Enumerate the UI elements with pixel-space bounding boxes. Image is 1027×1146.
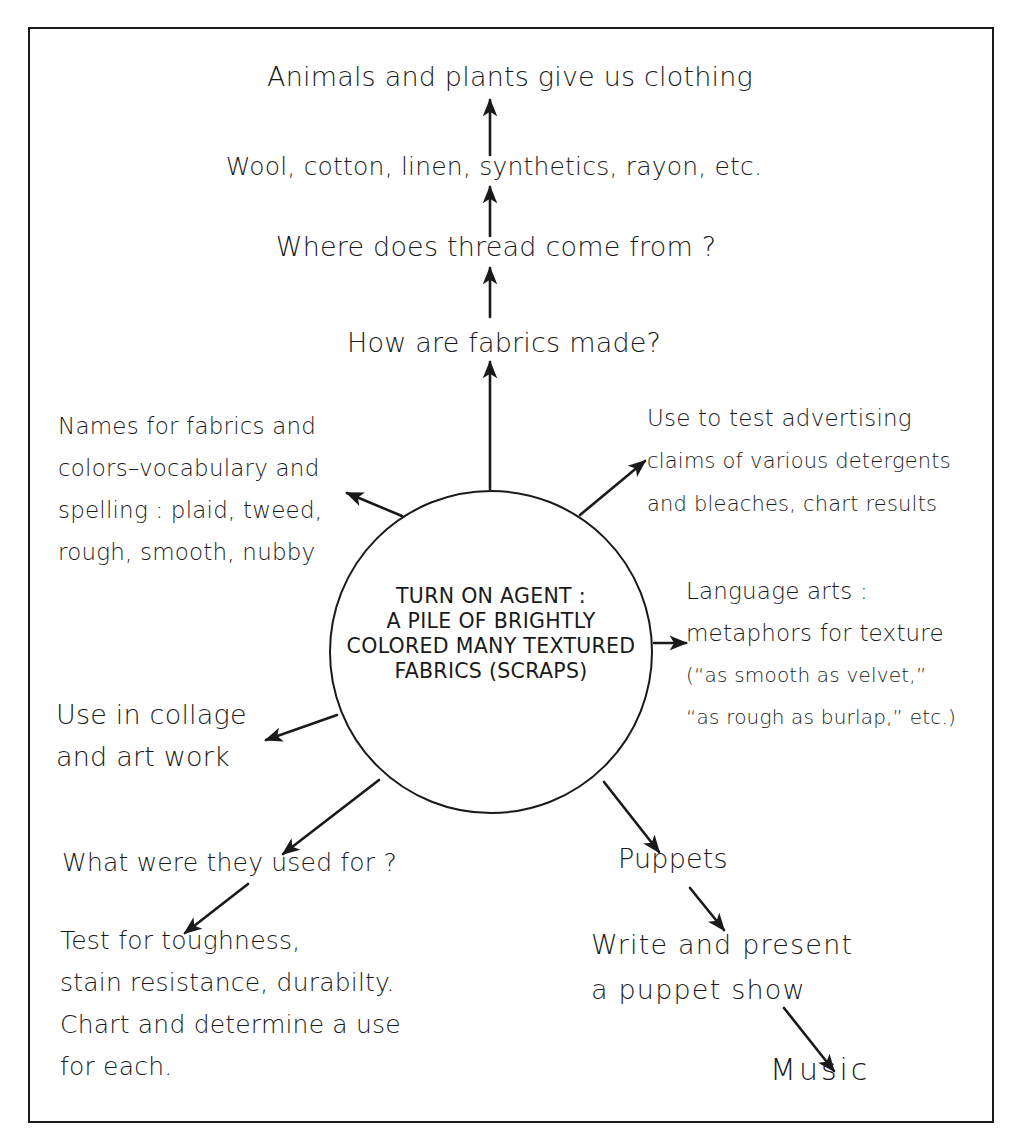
node-materials: Wool, cotton, linen, synthetics, rayon, … bbox=[226, 146, 762, 188]
node-used-for: What were they used for ? bbox=[62, 842, 397, 884]
hub-line: COLORED MANY TEXTURED bbox=[347, 634, 636, 659]
puppet-show-line: Write and present bbox=[591, 922, 853, 967]
node-test: Test for toughness, stain resistance, du… bbox=[60, 920, 401, 1088]
language-arts-line: (“as smooth as velvet,” bbox=[686, 654, 956, 696]
node-music: Music bbox=[770, 1046, 870, 1094]
hub-label: TURN ON AGENT : A PILE OF BRIGHTLY COLOR… bbox=[347, 584, 636, 684]
hub-circle: TURN ON AGENT : A PILE OF BRIGHTLY COLOR… bbox=[329, 490, 653, 814]
node-collage: Use in collage and art work bbox=[56, 694, 247, 778]
hub-line: TURN ON AGENT : bbox=[347, 584, 636, 609]
language-arts-line: “as rough as burlap,” etc.) bbox=[686, 696, 956, 738]
test-line: Chart and determine a use bbox=[60, 1004, 401, 1046]
node-vocabulary: Names for fabrics and colors–vocabulary … bbox=[58, 405, 322, 573]
language-arts-line: Language arts : bbox=[686, 570, 956, 612]
arrow-hub-to-vocabulary bbox=[347, 493, 402, 516]
vocabulary-line: spelling : plaid, tweed, bbox=[58, 489, 322, 531]
node-language-arts: Language arts : metaphors for texture (“… bbox=[686, 570, 956, 738]
node-thread: Where does thread come from ? bbox=[276, 226, 717, 268]
advertising-line: Use to test advertising bbox=[647, 397, 951, 440]
hub-line: FABRICS (SCRAPS) bbox=[347, 659, 636, 684]
advertising-line: claims of various detergents bbox=[647, 440, 951, 483]
collage-line: and art work bbox=[56, 736, 247, 778]
node-puppet-show: Write and present a puppet show bbox=[591, 922, 853, 1012]
node-how-made: How are fabrics made? bbox=[347, 322, 661, 364]
vocabulary-line: colors–vocabulary and bbox=[58, 447, 322, 489]
test-line: for each. bbox=[60, 1046, 401, 1088]
node-advertising: Use to test advertising claims of variou… bbox=[647, 397, 951, 526]
hub-line: A PILE OF BRIGHTLY bbox=[347, 609, 636, 634]
puppet-show-line: a puppet show bbox=[591, 967, 853, 1012]
test-line: stain resistance, durabilty. bbox=[60, 962, 401, 1004]
language-arts-line: metaphors for texture bbox=[686, 612, 956, 654]
arrow-hub-to-advertising bbox=[580, 461, 645, 515]
vocabulary-line: rough, smooth, nubby bbox=[58, 531, 322, 573]
collage-line: Use in collage bbox=[56, 694, 247, 736]
advertising-line: and bleaches, chart results bbox=[647, 483, 951, 526]
test-line: Test for toughness, bbox=[60, 920, 401, 962]
vocabulary-line: Names for fabrics and bbox=[58, 405, 322, 447]
node-puppets: Puppets bbox=[618, 838, 728, 880]
node-animals-plants: Animals and plants give us clothing bbox=[267, 56, 753, 98]
arrow-hub-to-collage bbox=[266, 715, 337, 740]
